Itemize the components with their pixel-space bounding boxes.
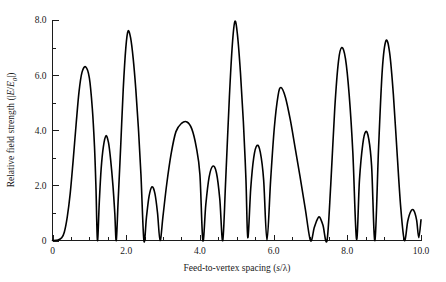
x-axis-title: Feed-to-vertex spacing (s/λ) [184, 263, 291, 274]
x-axis-minor-ticks [72, 237, 404, 241]
x-tick-label: 0 [50, 246, 55, 256]
y-axis-title: Relative field strength (|E/E0|) [6, 73, 19, 188]
x-axis-title-suffix: ) [287, 263, 290, 274]
x-axis-title-prefix: Feed-to-vertex spacing ( [184, 263, 277, 274]
x-tick-label: 10.0 [413, 246, 430, 256]
y-axis-tick-labels: 02.04.06.08.0 [35, 15, 47, 246]
x-axis-tick-labels: 02.04.06.08.010.0 [50, 246, 429, 256]
y-axis-title-prefix: Relative field strength (| [6, 95, 17, 187]
y-axis-title-suffix: |) [6, 73, 17, 78]
y-tick-label: 8.0 [35, 15, 47, 25]
x-tick-label: 2.0 [120, 246, 132, 256]
y-tick-label: 4.0 [35, 126, 47, 136]
x-tick-label: 8.0 [341, 246, 353, 256]
y-tick-label: 2.0 [35, 181, 47, 191]
axis-lines [52, 20, 421, 241]
field-strength-curve [53, 21, 422, 242]
chart-figure: 02.04.06.08.010.0 02.04.06.08.0 Feed-to-… [0, 0, 446, 282]
y-tick-label: 0 [42, 236, 47, 246]
y-tick-label: 6.0 [35, 71, 47, 81]
x-tick-label: 6.0 [268, 246, 280, 256]
y-axis-major-ticks [53, 21, 59, 242]
x-tick-label: 4.0 [194, 246, 206, 256]
field-strength-line-chart: 02.04.06.08.010.0 02.04.06.08.0 Feed-to-… [0, 0, 446, 282]
